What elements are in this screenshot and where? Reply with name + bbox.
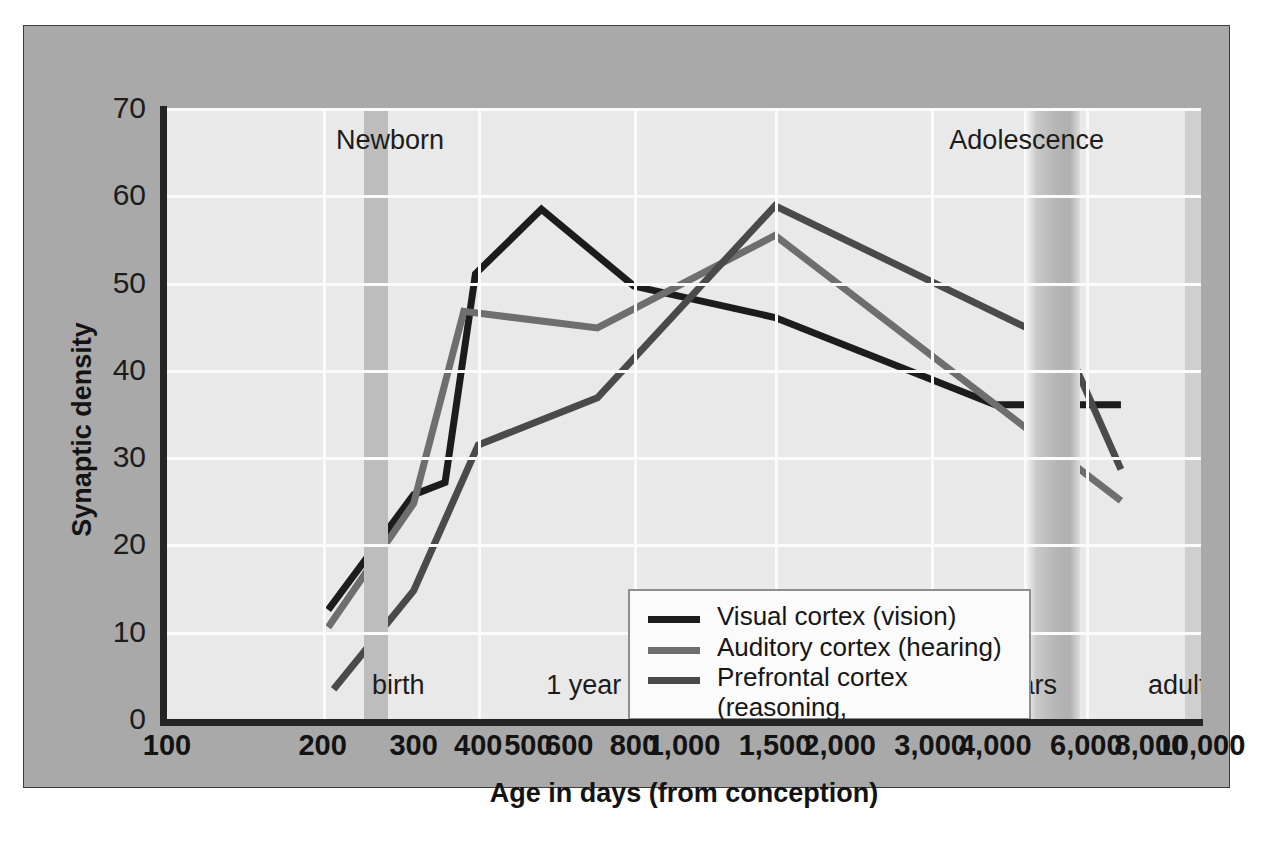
x-tick-label: 400 xyxy=(454,729,502,762)
figure-root: Synaptic density 010203040506070 birth1 … xyxy=(0,0,1261,841)
x-axis-tick-labels: 1002003004005006008001,0001,5002,0003,00… xyxy=(24,729,1261,775)
y-tick-label: 50 xyxy=(42,266,160,300)
series-line-2 xyxy=(328,235,1121,627)
y-axis-line xyxy=(160,106,167,723)
legend: Visual cortex (vision)Auditory cortex (h… xyxy=(628,589,1031,719)
chart-card: Synaptic density 010203040506070 birth1 … xyxy=(23,25,1230,788)
x-tick-label: 10,000 xyxy=(1157,729,1246,762)
stage-label-birth: birth xyxy=(372,670,425,701)
stage-label-1-year: 1 year xyxy=(546,670,621,701)
legend-item: Prefrontal cortex (reasoning, self-regul… xyxy=(648,663,1029,719)
plot-area: birth1 year3 years11 yearsadult NewbornA… xyxy=(167,108,1201,719)
y-tick-label: 40 xyxy=(42,353,160,387)
y-tick-label: 70 xyxy=(42,91,160,125)
y-tick-label: 60 xyxy=(42,178,160,212)
x-tick-label: 600 xyxy=(545,729,593,762)
x-tick-label: 200 xyxy=(298,729,346,762)
vertical-gridline xyxy=(323,108,326,719)
y-tick-label: 20 xyxy=(42,527,160,561)
era-label-adolescence: Adolescence xyxy=(949,125,1104,156)
birth-shaded-band xyxy=(364,108,388,719)
legend-label: Visual cortex (vision) xyxy=(717,602,956,632)
x-axis-line xyxy=(160,719,1203,726)
adolescence-shaded-band xyxy=(1024,108,1080,719)
legend-swatch-icon xyxy=(648,647,700,654)
vertical-gridline xyxy=(1086,108,1089,719)
x-tick-label: 100 xyxy=(143,729,191,762)
x-tick-label: 6,000 xyxy=(1050,729,1123,762)
stage-label-adult: adult xyxy=(1148,670,1201,701)
x-tick-label: 4,000 xyxy=(959,729,1032,762)
x-tick-label: 1,000 xyxy=(648,729,721,762)
legend-swatch-icon xyxy=(648,616,700,623)
x-tick-label: 3,000 xyxy=(894,729,967,762)
x-axis-title: Age in days (from conception) xyxy=(167,778,1201,809)
legend-label: Auditory cortex (hearing) xyxy=(717,633,1002,663)
x-tick-label: 300 xyxy=(389,729,437,762)
legend-item: Auditory cortex (hearing) xyxy=(648,633,1029,663)
x-tick-label: 1,500 xyxy=(739,729,812,762)
era-label-newborn: Newborn xyxy=(336,125,444,156)
y-tick-label: 30 xyxy=(42,440,160,474)
legend-item: Visual cortex (vision) xyxy=(648,602,1029,632)
x-tick-label: 2,000 xyxy=(803,729,876,762)
vertical-gridline xyxy=(478,108,481,719)
y-tick-label: 10 xyxy=(42,615,160,649)
legend-label: Prefrontal cortex (reasoning, self-regul… xyxy=(717,663,1029,719)
right-edge-shaded-band xyxy=(1185,108,1201,719)
legend-swatch-icon xyxy=(648,677,700,684)
y-axis-tick-labels: 010203040506070 xyxy=(24,26,160,841)
